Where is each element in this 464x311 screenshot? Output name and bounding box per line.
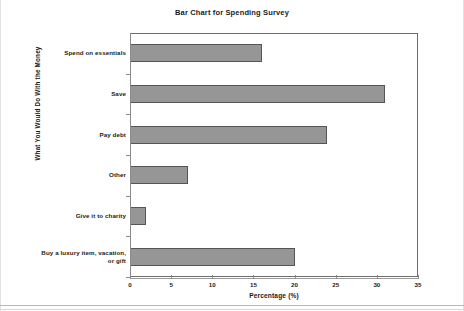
bar[interactable]	[130, 207, 146, 225]
x-axis-tick	[253, 275, 254, 279]
x-axis-tick-label: 15	[250, 281, 257, 288]
x-axis-tick-label: 35	[415, 281, 422, 288]
page-edge-left	[0, 0, 1, 311]
x-axis-tick-label: 30	[373, 281, 380, 288]
bar[interactable]	[130, 44, 262, 62]
chart-page: Bar Chart for Spending Survey What You W…	[0, 0, 464, 311]
x-axis-line	[130, 278, 418, 279]
y-axis-category-label: Spend on essentials	[6, 49, 126, 57]
x-axis-tick-label: 20	[291, 281, 298, 288]
x-axis-tick-label: 25	[332, 281, 339, 288]
y-axis-title: What You Would Do With the Money	[34, 9, 41, 199]
bar-row	[130, 114, 418, 155]
x-axis-title: Percentage (%)	[130, 292, 418, 299]
x-axis-tick	[336, 275, 337, 279]
x-axis-tick	[377, 275, 378, 279]
y-axis-tick	[126, 236, 130, 237]
y-axis-tick	[126, 196, 130, 197]
bars-layer	[130, 33, 418, 277]
x-axis-tick	[212, 275, 213, 279]
bar[interactable]	[130, 166, 188, 184]
bar[interactable]	[130, 248, 295, 266]
x-axis-tick-label: 0	[128, 281, 131, 288]
x-axis-tick	[418, 275, 419, 279]
bar-row	[130, 236, 418, 277]
chart-title: Bar Chart for Spending Survey	[0, 8, 464, 17]
page-rule	[0, 305, 464, 306]
bar-row	[130, 155, 418, 196]
y-axis-category-label: Save	[6, 90, 126, 98]
y-axis-category-label: Give it to charity	[6, 212, 126, 220]
y-axis-tick	[126, 74, 130, 75]
bar-row	[130, 74, 418, 115]
x-axis-tick	[295, 275, 296, 279]
bar[interactable]	[130, 85, 385, 103]
y-axis-tick	[126, 155, 130, 156]
bar[interactable]	[130, 126, 327, 144]
x-axis-tick	[171, 275, 172, 279]
y-axis-category-label: Buy a luxury item, vacation,or gift	[6, 249, 126, 265]
y-axis-category-label: Pay debt	[6, 131, 126, 139]
y-axis-line	[130, 33, 131, 278]
page-rule-secondary	[0, 309, 464, 310]
x-axis-tick-label: 5	[169, 281, 172, 288]
y-axis-tick	[126, 114, 130, 115]
bar-row	[130, 33, 418, 74]
x-axis-tick	[130, 275, 131, 279]
x-axis-tick-label: 10	[209, 281, 216, 288]
bar-row	[130, 196, 418, 237]
y-axis-category-label: Other	[6, 171, 126, 179]
